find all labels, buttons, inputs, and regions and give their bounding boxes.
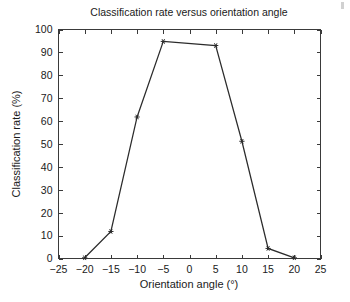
y-tick-label: 50: [41, 138, 53, 150]
y-tick-label: 10: [41, 229, 53, 241]
scan-artifact: [341, 2, 344, 9]
classification-rate-line-chart: Classification rate versus orientation a…: [0, 0, 350, 302]
x-tick-label: 25: [315, 263, 327, 275]
x-tick-label: −10: [128, 263, 146, 275]
y-tick-label: 100: [35, 23, 53, 35]
x-tick-label: 5: [213, 263, 219, 275]
y-tick-label: 30: [41, 184, 53, 196]
x-tick-label: −5: [157, 263, 169, 275]
x-axis-title: Orientation angle (°): [140, 278, 239, 290]
x-tick-label: 0: [187, 263, 193, 275]
x-tick-label: 10: [236, 263, 248, 275]
x-tick-label: 15: [262, 263, 274, 275]
y-tick-label: 0: [47, 252, 53, 264]
y-tick-label: 60: [41, 115, 53, 127]
y-axis-title: Classification rate (%): [10, 91, 22, 198]
y-tick-label: 20: [41, 207, 53, 219]
y-tick-label: 90: [41, 46, 53, 58]
chart-title: Classification rate versus orientation a…: [90, 6, 287, 18]
x-tick-label: 20: [288, 263, 300, 275]
x-tick-label: −15: [102, 263, 120, 275]
y-tick-label: 80: [41, 69, 53, 81]
x-tick-label: −20: [76, 263, 94, 275]
y-tick-label: 70: [41, 92, 53, 104]
figure-container: Classification rate versus orientation a…: [0, 0, 350, 302]
y-tick-label: 40: [41, 161, 53, 173]
chart-background: [0, 0, 350, 302]
